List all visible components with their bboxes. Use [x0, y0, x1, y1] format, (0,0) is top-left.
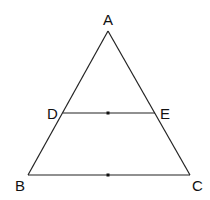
triangle-diagram: A B C D E	[0, 0, 210, 200]
segment-AB	[28, 31, 108, 175]
diagram-svg: A B C D E	[0, 0, 210, 200]
midpoint-DE-dot	[107, 112, 110, 115]
segment-AC	[108, 31, 190, 175]
label-D: D	[47, 105, 58, 122]
label-A: A	[103, 11, 113, 28]
label-C: C	[192, 177, 203, 194]
label-B: B	[15, 177, 25, 194]
midpoint-BC-dot	[107, 174, 110, 177]
label-E: E	[160, 105, 170, 122]
